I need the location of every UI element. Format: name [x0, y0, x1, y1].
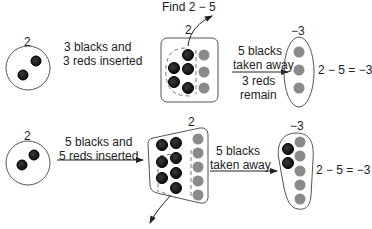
- diagram-title: Find 2 − 5: [162, 1, 216, 14]
- row1-result-set: [284, 37, 314, 107]
- row2-result-set: [278, 133, 313, 209]
- black-counter: [18, 70, 28, 80]
- row1-middle-set: [161, 38, 218, 102]
- row2-result-label: −3: [290, 120, 304, 133]
- black-counter: [31, 56, 41, 66]
- row2-step1-line1: 5 blacks and: [65, 136, 132, 149]
- row1-start-set: [6, 46, 50, 90]
- row1-step2-line4: remain: [240, 89, 277, 102]
- row2-step1-line2: 5 reds inserted: [59, 150, 138, 163]
- row2-step2-line2: taken away: [210, 159, 271, 172]
- row1-step2-line1: 5 blacks: [238, 45, 282, 58]
- row2-middle-label: 2: [188, 116, 195, 129]
- row1-equation: 2 − 5 = −3: [318, 64, 372, 77]
- row1-start-label: 2: [24, 36, 31, 49]
- row1-step2-line3: 3 reds: [242, 75, 275, 88]
- row2-start-set: [6, 141, 50, 185]
- row2-removal-arrow: [150, 196, 170, 223]
- row1-step2-line2: taken away: [233, 59, 294, 72]
- row2-start-label: 2: [24, 130, 31, 143]
- row2-middle-set: [148, 128, 208, 203]
- row2-equation: 2 − 5 = −3: [316, 164, 370, 177]
- row2-step2-line1: 5 blacks: [216, 145, 260, 158]
- row1-result-label: −3: [291, 25, 305, 38]
- row1-step1-line2: 3 reds inserted: [63, 55, 142, 68]
- row1-middle-label: 2: [185, 24, 192, 37]
- row1-step1-line1: 3 blacks and: [64, 41, 131, 54]
